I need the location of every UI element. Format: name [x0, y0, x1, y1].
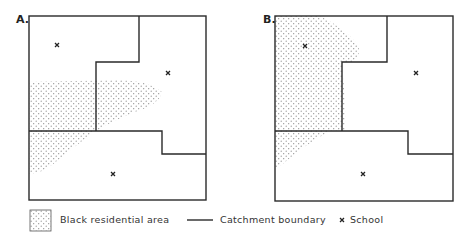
black-residential-area-b-shade [275, 16, 359, 170]
legend-school-x-icon [340, 218, 344, 222]
catchment-boundary-b-north [342, 16, 387, 131]
panel-label-a: A. [16, 13, 29, 26]
school-marker-a-nw [55, 43, 59, 47]
school-marker-b-s [361, 172, 365, 176]
school-marker-a-e [166, 71, 170, 75]
school-marker-b-e [414, 71, 418, 75]
panel-label-b: B. [263, 13, 276, 26]
legend-dot-swatch [30, 210, 51, 231]
school-marker-a-s [111, 172, 115, 176]
catchment-diagram [0, 0, 466, 240]
